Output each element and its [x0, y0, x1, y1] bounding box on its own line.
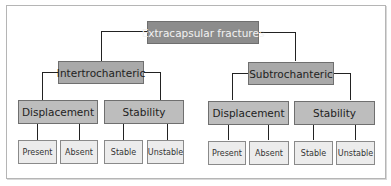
node-root: Extracapsular fractures: [147, 21, 259, 44]
connector-leaf: [37, 124, 38, 140]
connector-leaf: [313, 124, 314, 140]
connector-root-right: [259, 32, 295, 33]
connector-root-right-drop: [295, 32, 296, 61]
leaf-inter-unstable: Unstable: [147, 140, 184, 164]
connector-sub-left: [232, 73, 248, 74]
leaf-sub-absent: Absent: [249, 141, 289, 165]
connector-sub-right-drop: [350, 73, 351, 100]
node-subtrochanteric: Subtrochanteric: [248, 62, 334, 85]
connector-leaf: [268, 124, 269, 140]
leaf-sub-present: Present: [208, 141, 246, 165]
leaf-sub-stable: Stable: [294, 141, 333, 165]
node-inter-displacement: Displacement: [18, 100, 98, 124]
connector-leaf: [167, 124, 168, 140]
connector-inter-right: [144, 72, 161, 73]
connector-root-left: [101, 31, 147, 32]
connector-leaf: [79, 124, 80, 140]
node-sub-displacement: Displacement: [208, 101, 289, 125]
connector-leaf: [123, 124, 124, 140]
leaf-inter-stable: Stable: [104, 140, 143, 164]
connector-sub-left-drop: [232, 73, 233, 100]
connector-inter-left: [42, 72, 58, 73]
leaf-sub-unstable: Unstable: [336, 141, 375, 165]
leaf-inter-present: Present: [18, 140, 57, 164]
connector-inter-right-drop: [160, 72, 161, 100]
connector-inter-left-drop: [42, 72, 43, 100]
connector-leaf: [355, 124, 356, 140]
connector-leaf: [228, 124, 229, 140]
node-sub-stability: Stability: [294, 101, 375, 125]
node-inter-stability: Stability: [104, 100, 184, 124]
leaf-inter-absent: Absent: [60, 140, 98, 164]
connector-root-left-drop: [101, 31, 102, 61]
node-intertrochanteric: Intertrochanteric: [58, 61, 144, 84]
connector-sub-right: [334, 73, 351, 74]
